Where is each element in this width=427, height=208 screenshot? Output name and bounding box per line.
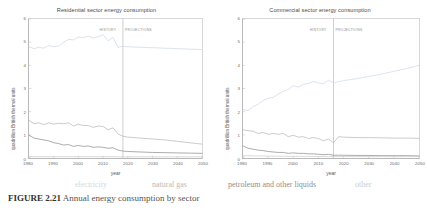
x-tick-residential-1980: 1980 — [19, 161, 37, 166]
chart-canvas-residential — [29, 19, 202, 158]
y-tick-commercial-2: 2 — [231, 110, 240, 115]
series-line-petroleum-and-other-liquids — [29, 135, 202, 153]
y-tick-commercial-3: 3 — [231, 86, 240, 91]
x-tick-residential-2050: 2050 — [194, 161, 212, 166]
legend-item-petroleum-and-other-liquids: petroleum and other liquids — [228, 180, 316, 189]
y-tick-commercial-4: 4 — [231, 63, 240, 68]
x-tick-commercial-2000: 2000 — [284, 161, 302, 166]
series-line-natural-gas — [29, 120, 202, 144]
legend-item-natural-gas: natural gas — [152, 180, 187, 189]
series-line-natural-gas — [243, 130, 419, 143]
projections-label-commercial: PROJECTIONS — [336, 28, 363, 32]
x-tick-residential-1990: 1990 — [44, 161, 62, 166]
series-line-electricity — [243, 65, 419, 110]
x-tick-residential-2000: 2000 — [69, 161, 87, 166]
x-tick-commercial-2050: 2050 — [411, 161, 427, 166]
figure-caption-text: Annual energy consumption by sector — [61, 193, 200, 203]
legend-item-electricity: electricity — [75, 180, 107, 189]
series-line-petroleum-and-other-liquids — [243, 146, 419, 156]
history-label-commercial: HISTORY — [310, 28, 327, 32]
y-tick-residential-4: 4 — [17, 63, 26, 68]
x-tick-commercial-2010: 2010 — [309, 161, 327, 166]
figure-caption: FIGURE 2.21 Annual energy consumption by… — [8, 193, 418, 203]
x-tick-residential-2010: 2010 — [94, 161, 112, 166]
panel-residential: Residential sector energy consumption qu… — [0, 0, 213, 180]
x-axis-label-commercial: year — [242, 170, 420, 176]
figure-root: Residential sector energy consumption qu… — [0, 0, 427, 208]
history-label-residential: HISTORY — [100, 28, 117, 32]
x-tick-commercial-1980: 1980 — [233, 161, 251, 166]
projections-label-residential: PROJECTIONS — [125, 28, 152, 32]
x-tick-residential-2020: 2020 — [119, 161, 137, 166]
y-tick-residential-3: 3 — [17, 86, 26, 91]
series-line-electricity — [29, 35, 202, 50]
legend: electricity natural gas petroleum and ot… — [0, 178, 427, 194]
x-axis-label-residential: year — [28, 170, 203, 176]
y-tick-residential-5: 5 — [17, 39, 26, 44]
panel-title-residential: Residential sector energy consumption — [0, 7, 213, 13]
x-tick-commercial-2020: 2020 — [335, 161, 353, 166]
y-tick-residential-6: 6 — [17, 16, 26, 21]
x-tick-commercial-2030: 2030 — [360, 161, 378, 166]
x-tick-residential-2040: 2040 — [169, 161, 187, 166]
y-tick-residential-2: 2 — [17, 110, 26, 115]
plot-area-commercial — [242, 18, 420, 159]
x-tick-residential-2030: 2030 — [144, 161, 162, 166]
y-tick-commercial-5: 5 — [231, 39, 240, 44]
plot-area-residential — [28, 18, 203, 159]
panel-title-commercial: Commercial sector energy consumption — [213, 7, 427, 13]
y-tick-residential-1: 1 — [17, 133, 26, 138]
x-tick-commercial-1990: 1990 — [258, 161, 276, 166]
x-tick-commercial-2040: 2040 — [386, 161, 404, 166]
y-tick-commercial-6: 6 — [231, 16, 240, 21]
y-axis-label-commercial: quadrillion British thermal units — [225, 87, 230, 150]
y-tick-residential-0: 0 — [17, 157, 26, 162]
chart-canvas-commercial — [243, 19, 419, 158]
y-axis-label-residential: quadrillion British thermal units — [11, 87, 16, 150]
figure-number: FIGURE 2.21 — [8, 193, 61, 203]
y-tick-commercial-1: 1 — [231, 133, 240, 138]
legend-item-other: other — [355, 180, 371, 189]
y-tick-commercial-0: 0 — [231, 157, 240, 162]
